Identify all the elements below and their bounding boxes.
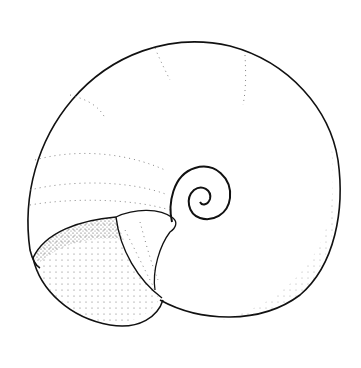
shell-illustration [0,0,361,368]
shell-drawing [0,0,361,368]
edge-shading [220,140,337,320]
spiral-apex [171,167,231,222]
